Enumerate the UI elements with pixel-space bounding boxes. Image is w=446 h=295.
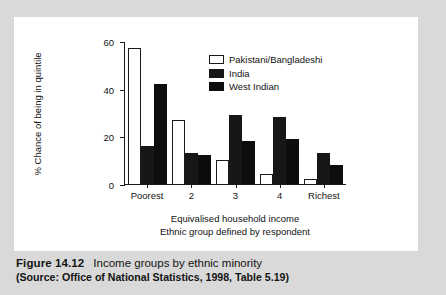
legend-label-india: India bbox=[229, 68, 250, 79]
x-axis-title-line2: Ethnic group defined by respondent bbox=[124, 226, 346, 239]
x-axis-title-line1: Equivalised household income bbox=[124, 213, 346, 226]
scanned-figure-page: % Chance of being in quintile 0 20 40 60 bbox=[0, 0, 446, 295]
figure-number: Figure 14.12 bbox=[16, 257, 84, 269]
figure-source: (Source: Office of National Statistics, … bbox=[16, 271, 436, 284]
bar-poorest-pakistani-bangladeshi bbox=[128, 48, 141, 184]
x-tick-label-2: 2 bbox=[189, 190, 194, 201]
bar-richest-west-indian bbox=[330, 165, 343, 184]
legend-item-india: India bbox=[209, 68, 322, 79]
chart-legend: Pakistani/Bangladeshi India West Indian bbox=[209, 54, 322, 92]
legend-item-west-indian: West Indian bbox=[209, 81, 322, 92]
bar-group-2: 2 bbox=[169, 41, 213, 184]
y-tick-60: 60 bbox=[120, 42, 124, 43]
bar-4-india bbox=[273, 117, 286, 184]
x-tick-richest bbox=[324, 184, 325, 188]
bar-3-pakistani-bangladeshi bbox=[216, 160, 229, 184]
x-tick-poorest bbox=[147, 184, 148, 188]
figure-caption-title-line: Figure 14.12Income groups by ethnic mino… bbox=[16, 256, 436, 270]
bar-4-pakistani-bangladeshi bbox=[260, 174, 273, 184]
bar-richest-india bbox=[317, 153, 330, 184]
bar-2-west-indian bbox=[198, 155, 211, 184]
y-tick-label-20: 20 bbox=[103, 132, 114, 143]
x-tick-4 bbox=[280, 184, 281, 188]
bar-3-west-indian bbox=[242, 141, 255, 184]
x-axis-caption: Equivalised household income Ethnic grou… bbox=[124, 213, 346, 238]
x-tick-label-3: 3 bbox=[233, 190, 238, 201]
legend-label-west-indian: West Indian bbox=[229, 81, 279, 92]
x-tick-label-poorest: Poorest bbox=[131, 190, 164, 201]
y-tick-20: 20 bbox=[120, 137, 124, 138]
y-tick-label-40: 40 bbox=[103, 84, 114, 95]
x-tick-label-4: 4 bbox=[277, 190, 282, 201]
bar-chart: % Chance of being in quintile 0 20 40 60 bbox=[14, 17, 418, 251]
legend-swatch-icon-india bbox=[209, 69, 224, 78]
bar-3-india bbox=[229, 115, 242, 184]
y-tick-label-0: 0 bbox=[109, 180, 114, 191]
figure-caption: Figure 14.12Income groups by ethnic mino… bbox=[16, 256, 436, 284]
y-tick-label-60: 60 bbox=[103, 37, 114, 48]
bar-4-west-indian bbox=[286, 139, 299, 184]
bar-poorest-west-indian bbox=[154, 84, 167, 184]
bar-2-india bbox=[185, 153, 198, 184]
x-tick-3 bbox=[236, 184, 237, 188]
bar-richest-pakistani-bangladeshi bbox=[304, 179, 317, 184]
legend-item-pakistani-bangladeshi: Pakistani/Bangladeshi bbox=[209, 54, 322, 65]
bar-poorest-india bbox=[141, 146, 154, 184]
x-tick-2 bbox=[191, 184, 192, 188]
bar-2-pakistani-bangladeshi bbox=[172, 120, 185, 184]
figure-panel: % Chance of being in quintile 0 20 40 60 bbox=[14, 17, 418, 251]
figure-title: Income groups by ethnic minority bbox=[93, 257, 262, 269]
y-tick-40: 40 bbox=[120, 90, 124, 91]
legend-swatch-icon-west-indian bbox=[209, 82, 224, 91]
x-tick-label-richest: Richest bbox=[308, 190, 340, 201]
y-axis-title: % Chance of being in quintile bbox=[32, 42, 44, 186]
bar-group-poorest: Poorest bbox=[125, 41, 169, 184]
legend-label-pakistani-bangladeshi: Pakistani/Bangladeshi bbox=[229, 54, 322, 65]
y-tick-0: 0 bbox=[120, 185, 124, 186]
legend-swatch-icon-pakistani-bangladeshi bbox=[209, 55, 224, 64]
